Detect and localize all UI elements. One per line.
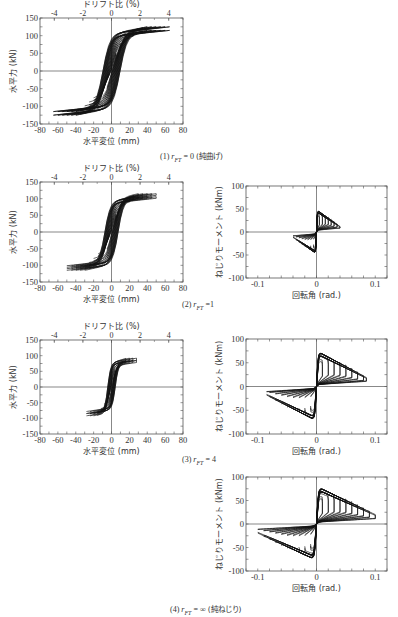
chart-panel-2: -0.100.1-100-50050100回転角 (rad.)ねじりモーメント …	[215, 181, 387, 300]
y-tick-label: 50	[30, 48, 39, 58]
x-tick-label: 60	[161, 125, 170, 135]
x-tick-label: 0	[109, 283, 113, 293]
x-tick-label: -40	[70, 435, 81, 445]
y-axis-label: ねじりモーメント (kNm)	[215, 186, 224, 277]
y-tick-label: 0	[240, 519, 244, 529]
panel-caption-4: (4) rFT = ∞ (純ねじり)	[170, 603, 242, 616]
x-tick-label: 40	[143, 435, 152, 445]
x-axis-label: 水平変位 (mm)	[83, 446, 139, 456]
y-tick-label: -50	[27, 398, 38, 408]
x-tick-label: 80	[179, 125, 188, 135]
x-axis-label: 回転角 (rad.)	[292, 583, 341, 593]
x2-tick-label: -2	[80, 9, 87, 18]
y-tick-label: -100	[228, 273, 244, 283]
x-tick-label: -40	[70, 283, 81, 293]
caption-note: (純曲げ)	[196, 152, 223, 161]
y-tick-label: 100	[231, 472, 244, 482]
x-tick-label: 0	[314, 435, 318, 445]
x-tick-label: 40	[143, 283, 152, 293]
caption-equation: = 0	[181, 152, 196, 161]
y-tick-label: -50	[27, 244, 38, 254]
x-axis-label: 水平変位 (mm)	[83, 294, 139, 304]
x2-tick-label: -4	[51, 9, 58, 18]
x-tick-label: 20	[125, 283, 134, 293]
caption-equation: = ∞	[191, 605, 207, 614]
x-axis-label: 回転角 (rad.)	[292, 446, 341, 456]
y-tick-label: 50	[30, 366, 39, 376]
y-tick-label: 150	[25, 335, 38, 345]
x-tick-label: 0	[109, 435, 113, 445]
y-tick-label: 100	[25, 194, 38, 204]
x2-axis-label: ドリフト比 (%)	[83, 163, 139, 173]
y-tick-label: 100	[231, 334, 244, 344]
x2-tick-label: -2	[80, 331, 87, 340]
y-axis-label: ねじりモーメント (kNm)	[215, 341, 224, 432]
x2-tick-label: 0	[110, 331, 114, 340]
x-tick-label: 20	[125, 125, 134, 135]
chart-panel-1: -80-60-40-20020406080-150-100-5005010015…	[8, 163, 187, 304]
y-tick-label: 100	[25, 31, 38, 41]
y-tick-label: -100	[228, 566, 244, 576]
panel-caption-3: (3) rFT = 4	[182, 455, 216, 466]
caption-equation: =1	[203, 300, 214, 309]
y-tick-label: 150	[25, 13, 38, 23]
y-tick-label: -50	[27, 84, 38, 94]
chart-panel-0: -80-60-40-20020406080-150-100-5005010015…	[8, 0, 187, 146]
panel-caption-1: (1) rFT = 0 (純曲げ)	[160, 150, 223, 163]
caption-number: (1)	[160, 152, 171, 161]
y-tick-label: -50	[233, 250, 244, 260]
y-tick-label: -100	[22, 260, 38, 270]
y-tick-label: 50	[236, 358, 245, 368]
x2-tick-label: -4	[51, 173, 58, 182]
x2-tick-label: -2	[80, 173, 87, 182]
y-tick-label: -150	[22, 119, 38, 129]
x2-tick-label: 4	[167, 331, 171, 340]
x-tick-label: 0.1	[370, 435, 381, 445]
caption-number: (2)	[182, 300, 193, 309]
x-tick-label: 60	[161, 283, 170, 293]
y-tick-label: -50	[233, 405, 244, 415]
y-tick-label: 50	[30, 210, 39, 220]
x-tick-label: 0	[314, 572, 318, 582]
x2-tick-label: 4	[167, 173, 171, 182]
y-tick-label: 150	[25, 177, 38, 187]
x2-tick-label: 0	[110, 9, 114, 18]
y-tick-label: 0	[34, 66, 38, 76]
y-tick-label: -100	[22, 413, 38, 423]
x2-tick-label: 4	[167, 9, 171, 18]
x-tick-label: 20	[125, 435, 134, 445]
y-tick-label: -50	[233, 543, 244, 553]
caption-note: (純ねじり)	[208, 605, 242, 614]
x-tick-label: -60	[52, 283, 63, 293]
y-tick-label: -150	[22, 277, 38, 287]
x2-axis-label: ドリフト比 (%)	[83, 321, 139, 331]
y-tick-label: -150	[22, 429, 38, 439]
x-tick-label: 0	[314, 279, 318, 289]
y-axis-label: 水平力 (kN)	[8, 210, 18, 253]
y-tick-label: 0	[34, 227, 38, 237]
y-axis-label: 水平力 (kN)	[8, 365, 18, 408]
x-tick-label: -20	[88, 435, 99, 445]
x2-tick-label: 0	[110, 173, 114, 182]
y-tick-label: 50	[236, 496, 245, 506]
chart-panel-5: -0.100.1-100-50050100回転角 (rad.)ねじりモーメント …	[215, 472, 387, 593]
caption-number: (4)	[170, 605, 181, 614]
x-tick-label: 60	[161, 435, 170, 445]
y-tick-label: 50	[236, 204, 245, 214]
y-tick-label: -100	[228, 429, 244, 439]
x-tick-label: 80	[179, 283, 188, 293]
x-tick-label: -0.1	[251, 435, 264, 445]
chart-panel-3: -80-60-40-20020406080-150-100-5005010015…	[8, 321, 187, 456]
x-tick-label: 40	[143, 125, 152, 135]
caption-equation: = 4	[203, 455, 216, 464]
x-tick-label: 80	[179, 435, 188, 445]
x-tick-label: 0.1	[370, 279, 381, 289]
caption-number: (3)	[182, 455, 193, 464]
x-tick-label: -20	[88, 283, 99, 293]
chart-panel-4: -0.100.1-100-50050100回転角 (rad.)ねじりモーメント …	[215, 334, 387, 456]
x-tick-label: -60	[52, 125, 63, 135]
x-tick-label: -0.1	[251, 572, 264, 582]
x-tick-label: 0	[109, 125, 113, 135]
x2-tick-label: 2	[138, 331, 142, 340]
x-tick-label: 0.1	[370, 572, 381, 582]
